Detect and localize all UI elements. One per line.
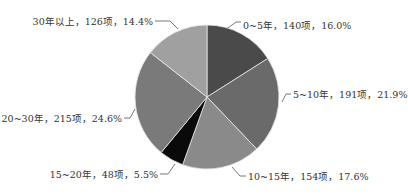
label-15-20: 15~20年，48项，5.5%: [50, 169, 158, 180]
label-20-30: 20~30年，215项，24.6%: [2, 113, 122, 124]
pie-slices: [135, 25, 279, 169]
leader-line-20-30: [124, 109, 135, 118]
leader-line-0-5: [228, 22, 241, 28]
leader-line-10-15: [232, 167, 246, 176]
label-0-5: 0~5年，140项，16.0%: [243, 20, 351, 31]
leader-line-30plus: [155, 21, 178, 29]
leader-line-15-20: [160, 164, 175, 174]
leader-line-5-10: [282, 94, 291, 102]
label-30plus: 30年以上，126项，14.4%: [33, 16, 153, 27]
label-10-15: 10~15年，154项，17.6%: [248, 171, 368, 182]
pie-chart: 0~5年，140项，16.0% 5~10年，191项，21.9% 10~15年，…: [0, 0, 408, 196]
label-5-10: 5~10年，191项，21.9%: [293, 89, 407, 100]
